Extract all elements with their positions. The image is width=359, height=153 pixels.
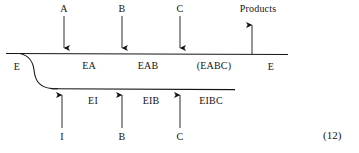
species-label-e-outlet: E <box>268 62 274 72</box>
species-label-eib: EIB <box>143 96 160 106</box>
species-label-ei: EI <box>88 96 98 106</box>
species-label-eibc: EIBC <box>199 96 223 106</box>
equation-number: (12) <box>323 130 341 141</box>
arrow-label-c-bottom: C <box>177 132 184 142</box>
species-label-eabc: (EABC) <box>197 61 232 71</box>
branch-curve <box>20 54 58 89</box>
species-label-e-inlet: E <box>14 62 20 72</box>
arrow-label-a: A <box>60 4 67 14</box>
arrow-label-i: I <box>60 132 64 142</box>
arrow-label-products: Products <box>240 4 277 14</box>
top-chain-baseline <box>6 54 288 55</box>
bottom-chain-baseline <box>52 89 235 90</box>
arrow-label-c-top: C <box>177 4 184 14</box>
arrow-label-b-top: B <box>119 4 126 14</box>
reaction-scheme-figure: A B C Products E EA EAB (EABC) E EI EIB … <box>0 0 359 153</box>
arrow-label-b-bottom: B <box>119 132 126 142</box>
species-label-ea: EA <box>82 61 96 71</box>
species-label-eab: EAB <box>138 61 159 71</box>
